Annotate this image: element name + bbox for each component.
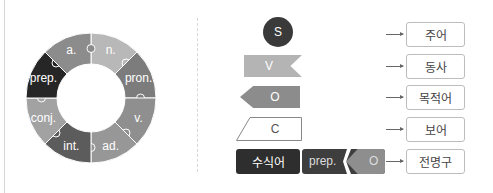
arrow-icon xyxy=(386,161,403,162)
arrow-icon xyxy=(386,97,403,98)
ring-segment-label: ad. xyxy=(102,139,119,153)
meaning-label: 주어 xyxy=(425,26,447,43)
parts-of-speech-ring: n.pron.v.ad.int.conj.prep.a. xyxy=(25,32,157,164)
meaning-label: 전명구 xyxy=(419,153,452,170)
puzzle-knob xyxy=(87,45,95,53)
left-border-line xyxy=(4,0,5,193)
prep-text: prep. xyxy=(309,154,336,168)
parallelogram-shape xyxy=(236,117,302,141)
prep-object-text: O xyxy=(369,154,378,168)
subject-symbol-text: S xyxy=(274,25,282,39)
arrow-icon xyxy=(386,66,403,67)
complement-symbol-text: C xyxy=(271,122,280,136)
arrow-icon xyxy=(386,34,403,35)
meaning-label: 목적어 xyxy=(419,89,452,106)
ring-segment-label: v. xyxy=(134,111,142,125)
arrow-icon xyxy=(386,129,403,130)
meaning-box-complement: 보어 xyxy=(406,117,465,142)
verb-symbol-text: V xyxy=(265,59,273,73)
meaning-box-prep-phrase: 전명구 xyxy=(406,149,465,174)
subject-circle-symbol: S xyxy=(263,17,293,47)
meaning-box-verb: 동사 xyxy=(406,54,465,79)
complement-parallelogram-symbol: C xyxy=(236,117,302,141)
meaning-label: 보어 xyxy=(425,121,447,138)
meaning-box-object: 목적어 xyxy=(406,85,465,110)
modifier-box: 수식어 xyxy=(236,149,300,174)
prep-phrase-symbol: prep. O xyxy=(302,149,385,174)
modifier-text: 수식어 xyxy=(252,153,285,170)
ring-segment-label: a. xyxy=(66,43,76,57)
object-arrow-symbol: O xyxy=(240,86,300,108)
object-symbol-text: O xyxy=(270,90,279,104)
verb-flag-symbol: V xyxy=(244,55,302,77)
ring-segment-label: int. xyxy=(63,139,79,153)
ring-segment-label: prep. xyxy=(30,71,57,85)
ring-graphic: n.pron.v.ad.int.conj.prep.a. xyxy=(25,32,157,164)
ring-segment-label: n. xyxy=(106,43,116,57)
dashed-divider xyxy=(197,18,198,172)
ring-segment-label: conj. xyxy=(31,111,56,125)
meaning-label: 동사 xyxy=(425,58,447,75)
meaning-box-subject: 주어 xyxy=(406,22,465,47)
ring-segment-label: pron. xyxy=(125,71,152,85)
